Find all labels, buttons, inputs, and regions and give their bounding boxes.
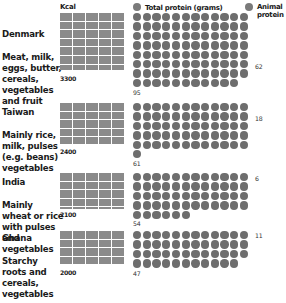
kcal-cell bbox=[112, 173, 124, 181]
protein-dot bbox=[143, 201, 151, 209]
protein-dot bbox=[191, 51, 199, 59]
kcal-cell bbox=[86, 22, 98, 30]
protein-dot bbox=[172, 32, 180, 40]
protein-dot bbox=[240, 112, 248, 120]
protein-dot bbox=[133, 150, 141, 158]
kcal-cell bbox=[99, 22, 111, 30]
protein-dot bbox=[201, 122, 209, 130]
country-name: Taiwan bbox=[2, 107, 64, 118]
protein-dot bbox=[230, 122, 238, 130]
protein-dot bbox=[211, 122, 219, 130]
protein-dot bbox=[182, 240, 190, 248]
protein-dot bbox=[240, 141, 248, 149]
country-name: Ghana bbox=[2, 233, 64, 244]
protein-dot bbox=[240, 32, 248, 40]
protein-dot bbox=[182, 112, 190, 120]
protein-dot bbox=[182, 201, 190, 209]
protein-dot bbox=[162, 112, 170, 120]
protein-dot bbox=[240, 60, 248, 68]
kcal-cell bbox=[86, 231, 98, 239]
kcal-cell bbox=[86, 257, 98, 265]
kcal-cell bbox=[112, 22, 124, 30]
animal-protein-value-denmark: 62 bbox=[255, 63, 262, 70]
protein-dot bbox=[162, 79, 170, 87]
kcal-cell bbox=[99, 173, 111, 181]
protein-dot bbox=[191, 112, 199, 120]
kcal-cell bbox=[60, 199, 72, 207]
protein-dot bbox=[143, 131, 151, 139]
protein-dot bbox=[211, 192, 219, 200]
protein-dot bbox=[133, 22, 141, 30]
protein-dot bbox=[172, 201, 180, 209]
protein-dot bbox=[133, 122, 141, 130]
protein-dot bbox=[152, 231, 160, 239]
protein-dot bbox=[133, 182, 141, 190]
protein-dot bbox=[133, 103, 141, 111]
protein-dot bbox=[152, 173, 160, 181]
protein-dot bbox=[133, 69, 141, 77]
kcal-cell bbox=[73, 190, 85, 198]
protein-dot bbox=[182, 79, 190, 87]
kcal-cell bbox=[112, 207, 124, 209]
protein-dot bbox=[162, 250, 170, 258]
protein-dot bbox=[182, 250, 190, 258]
protein-dot bbox=[201, 32, 209, 40]
protein-dot bbox=[182, 173, 190, 181]
protein-dot bbox=[211, 131, 219, 139]
protein-dot bbox=[191, 79, 199, 87]
kcal-cell bbox=[73, 22, 85, 30]
kcal-cell bbox=[60, 173, 72, 181]
protein-dot bbox=[240, 22, 248, 30]
protein-dot bbox=[191, 60, 199, 68]
protein-dot bbox=[133, 79, 141, 87]
protein-dot bbox=[143, 141, 151, 149]
protein-dot bbox=[201, 60, 209, 68]
protein-dot bbox=[133, 13, 141, 21]
kcal-cell bbox=[99, 47, 111, 55]
protein-dot bbox=[191, 32, 199, 40]
protein-dot bbox=[143, 51, 151, 59]
protein-dot bbox=[191, 259, 199, 267]
kcal-value-ghana: 2000 bbox=[60, 269, 76, 276]
kcal-cell bbox=[86, 30, 98, 38]
protein-dot bbox=[172, 192, 180, 200]
protein-dot bbox=[191, 182, 199, 190]
protein-dot bbox=[220, 250, 228, 258]
protein-dot bbox=[201, 201, 209, 209]
protein-dot bbox=[201, 192, 209, 200]
kcal-cell bbox=[112, 112, 124, 120]
kcal-cell bbox=[73, 173, 85, 181]
kcal-cell bbox=[86, 129, 98, 137]
country-label-ghana: Ghana Starchy roots and cereals, vegetab… bbox=[2, 222, 64, 303]
protein-dot bbox=[191, 69, 199, 77]
protein-dot bbox=[240, 240, 248, 248]
protein-dot bbox=[201, 141, 209, 149]
kcal-cell bbox=[112, 47, 124, 55]
protein-dot bbox=[133, 231, 141, 239]
protein-dot bbox=[220, 22, 228, 30]
protein-dot bbox=[182, 69, 190, 77]
kcal-cell bbox=[86, 182, 98, 190]
protein-dot bbox=[230, 259, 238, 267]
kcal-cell bbox=[99, 248, 111, 256]
kcal-cell bbox=[73, 257, 85, 265]
protein-dot bbox=[133, 51, 141, 59]
kcal-cell bbox=[60, 137, 72, 144]
kcal-cell bbox=[86, 103, 98, 111]
kcal-cell bbox=[86, 120, 98, 128]
kcal-cell bbox=[73, 182, 85, 190]
protein-dot bbox=[220, 69, 228, 77]
kcal-value-india: 2100 bbox=[60, 211, 76, 218]
protein-dot bbox=[240, 103, 248, 111]
protein-dot bbox=[143, 173, 151, 181]
kcal-cell bbox=[86, 13, 98, 21]
protein-dot bbox=[162, 259, 170, 267]
protein-dot bbox=[143, 250, 151, 258]
kcal-cell bbox=[60, 39, 72, 47]
protein-dot bbox=[240, 122, 248, 130]
protein-dot bbox=[211, 22, 219, 30]
protein-dot bbox=[172, 240, 180, 248]
animal-protein-value-ghana: 11 bbox=[255, 232, 262, 239]
protein-dot bbox=[172, 141, 180, 149]
total-protein-value-taiwan: 61 bbox=[133, 160, 140, 167]
